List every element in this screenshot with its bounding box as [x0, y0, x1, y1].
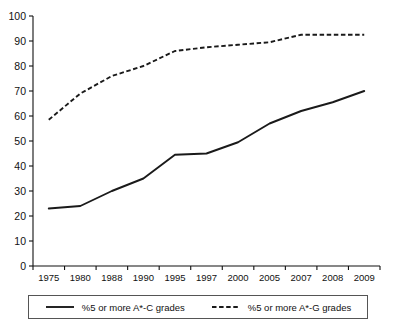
y-tick-label: 50 [14, 135, 26, 147]
legend-swatch-dashed-line-icon [211, 302, 241, 312]
series-line-solid [49, 91, 364, 209]
y-tick-label: 0 [20, 260, 26, 272]
y-tick-label: 100 [8, 10, 26, 22]
x-tick-label: 1975 [38, 272, 59, 283]
legend-swatch-solid-line-icon [45, 302, 75, 312]
y-tick-label: 30 [14, 185, 26, 197]
y-tick-label: 20 [14, 210, 26, 222]
legend-entry-solid: %5 or more A*-C grades [45, 302, 185, 313]
y-tick-label: 70 [14, 85, 26, 97]
x-tick-label: 1997 [196, 272, 217, 283]
x-tick-label: 2009 [354, 272, 375, 283]
y-tick-label: 10 [14, 235, 26, 247]
legend-entry-dashed: %5 or more A*-G grades [211, 302, 352, 313]
x-tick-label: 2005 [259, 272, 280, 283]
y-tick-label: 40 [14, 160, 26, 172]
x-tick-label: 1995 [164, 272, 185, 283]
chart-plot-area: 0102030405060708090100197519801988199019… [0, 0, 395, 290]
legend-label-dashed: %5 or more A*-G grades [248, 302, 352, 313]
x-tick-label: 2000 [227, 272, 248, 283]
x-tick-label: 1980 [70, 272, 91, 283]
x-tick-label: 2007 [291, 272, 312, 283]
y-tick-label: 90 [14, 35, 26, 47]
legend-label-solid: %5 or more A*-C grades [82, 302, 185, 313]
y-tick-label: 80 [14, 60, 26, 72]
x-tick-label: 2008 [322, 272, 343, 283]
chart-legend: %5 or more A*-C grades %5 or more A*-G g… [28, 295, 368, 319]
x-tick-label: 1988 [101, 272, 122, 283]
x-tick-label: 1990 [133, 272, 154, 283]
y-tick-label: 60 [14, 110, 26, 122]
line-chart: 0102030405060708090100197519801988199019… [0, 0, 395, 328]
